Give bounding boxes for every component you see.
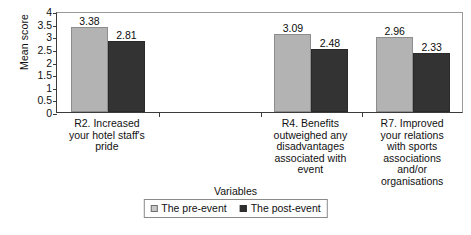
y-axis-tick-label: 2.5 bbox=[26, 45, 52, 56]
x-axis-tick-mark bbox=[362, 112, 363, 117]
category-label-line: organisations bbox=[353, 176, 471, 188]
y-axis-tick-mark bbox=[53, 101, 57, 102]
y-axis-tick-labels: 43.532.521.510.50 bbox=[26, 8, 52, 113]
y-axis-tick-mark bbox=[53, 114, 57, 115]
category-label-line: R2. Increased bbox=[48, 118, 166, 130]
bar-chart: Mean score 43.532.521.510.50 3.382.813.0… bbox=[0, 0, 471, 235]
legend-item-post-event: The post-event bbox=[240, 202, 321, 214]
bar-post-event bbox=[108, 41, 145, 112]
y-axis-tick-label: 3.5 bbox=[26, 19, 52, 30]
x-axis-category-label: R7. Improvedyour relationswith sportsass… bbox=[353, 118, 471, 188]
chart-legend: The pre-event The post-event bbox=[143, 199, 327, 218]
y-axis-tick-label: 0.5 bbox=[26, 95, 52, 106]
bar-post-event bbox=[413, 53, 450, 112]
legend-swatch-post-event bbox=[240, 205, 247, 212]
y-axis-tick-mark bbox=[53, 64, 57, 65]
x-axis-category-label: R4. Benefitsoutweighed anydisadvantagesa… bbox=[252, 118, 370, 176]
y-axis-tick-mark bbox=[53, 13, 57, 14]
category-label-line: event bbox=[252, 164, 370, 176]
y-axis-tick-label: 2 bbox=[26, 57, 52, 68]
y-axis-tick-mark bbox=[53, 38, 57, 39]
x-axis-category-label: R2. Increasedyour hotel staff'spride bbox=[48, 118, 166, 153]
y-axis-tick-mark bbox=[53, 26, 57, 27]
bar-value-label: 2.81 bbox=[116, 30, 136, 41]
category-label-line: R4. Benefits bbox=[252, 118, 370, 130]
x-axis-tick-mark bbox=[159, 112, 160, 117]
bar-value-label: 3.09 bbox=[283, 23, 303, 34]
bar-value-label: 2.33 bbox=[421, 42, 441, 53]
y-axis-tick-mark bbox=[53, 76, 57, 77]
legend-item-pre-event: The pre-event bbox=[150, 202, 226, 214]
y-axis-tick-label: 4 bbox=[26, 7, 52, 18]
legend-label-post-event: The post-event bbox=[251, 202, 321, 214]
bar-pre-event bbox=[71, 27, 108, 112]
plot-area: 3.382.813.092.482.962.33 bbox=[56, 12, 463, 113]
y-axis-tick-label: 1.5 bbox=[26, 70, 52, 81]
category-label-line: R7. Improved bbox=[353, 118, 471, 130]
x-axis-tick-mark bbox=[261, 112, 262, 117]
legend-swatch-pre-event bbox=[150, 205, 157, 212]
bar-value-label: 2.96 bbox=[384, 26, 404, 37]
bar-post-event bbox=[311, 49, 348, 112]
y-axis-tick-mark bbox=[53, 51, 57, 52]
bar-value-label: 3.38 bbox=[79, 16, 99, 27]
y-axis-tick-label: 3 bbox=[26, 32, 52, 43]
y-axis-tick-label: 0 bbox=[26, 108, 52, 119]
bar-pre-event bbox=[376, 37, 413, 112]
legend-label-pre-event: The pre-event bbox=[161, 202, 226, 214]
bar-pre-event bbox=[274, 34, 311, 112]
y-axis-tick-label: 1 bbox=[26, 83, 52, 94]
y-axis-tick-mark bbox=[53, 89, 57, 90]
bar-value-label: 2.48 bbox=[320, 38, 340, 49]
category-label-line: pride bbox=[48, 141, 166, 153]
